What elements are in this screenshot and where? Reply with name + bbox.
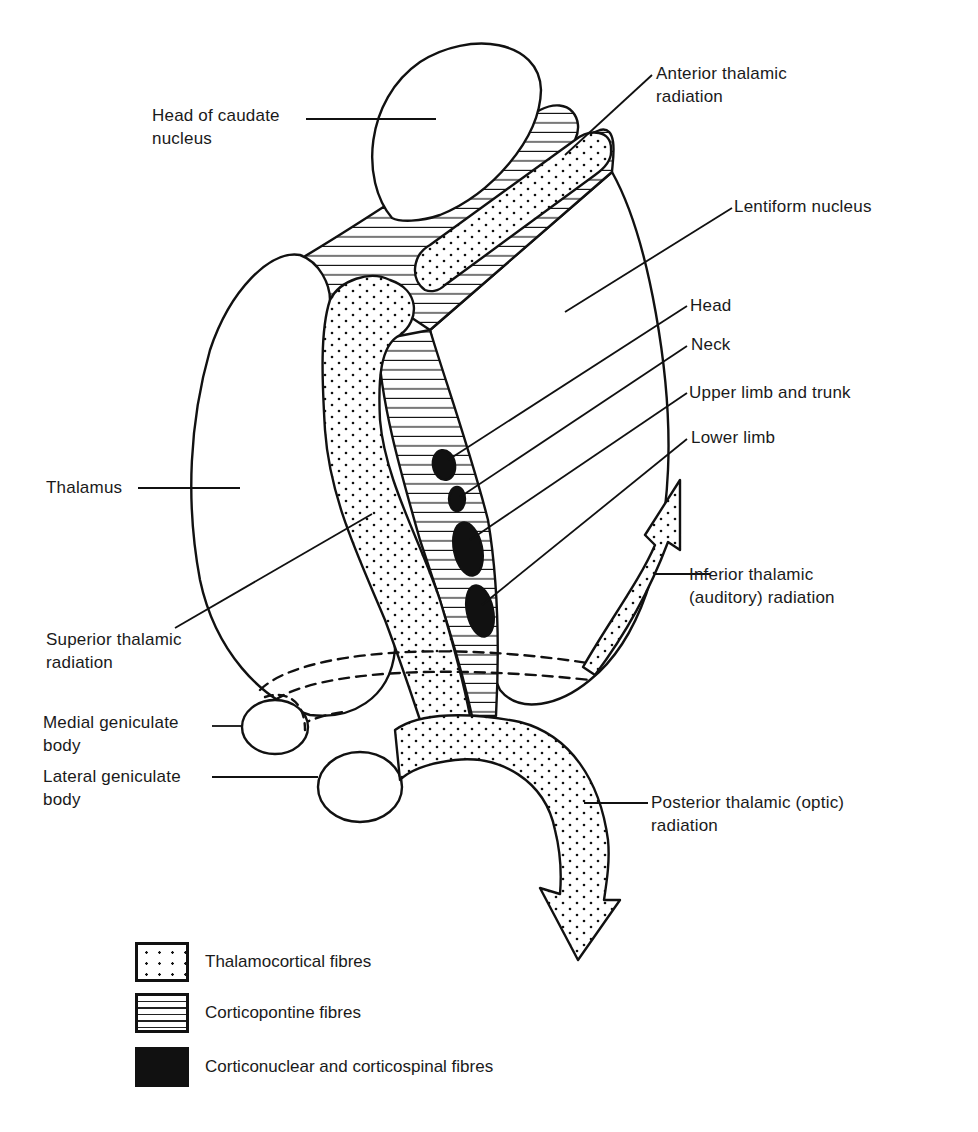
lined-pattern-swatch-icon — [135, 993, 189, 1033]
label-superior-thalamic-radiation: Superior thalamic radiation — [46, 628, 182, 674]
optic-radiation-arrow — [395, 715, 620, 960]
legend-label: Corticopontine fibres — [205, 1003, 361, 1023]
label-anterior-thalamic-radiation: Anterior thalamic radiation — [656, 62, 787, 108]
label-head-of-caudate: Head of caudate nucleus — [152, 104, 280, 150]
legend-item-corticonuclear-corticospinal: Corticonuclear and corticospinal fibres — [135, 1047, 493, 1087]
legend-item-thalamocortical: Thalamocortical fibres — [135, 942, 371, 982]
fibres-neck — [449, 487, 465, 511]
lateral-geniculate-body — [318, 752, 402, 822]
label-posterior-thalamic-radiation: Posterior thalamic (optic) radiation — [651, 791, 844, 837]
label-thalamus: Thalamus — [46, 476, 122, 499]
medial-geniculate-body — [242, 700, 308, 754]
label-lateral-geniculate-body: Lateral geniculate body — [43, 765, 181, 811]
label-lentiform-nucleus: Lentiform nucleus — [734, 195, 872, 218]
label-medial-geniculate-body: Medial geniculate body — [43, 711, 179, 757]
label-neck: Neck — [691, 333, 731, 356]
legend-label: Thalamocortical fibres — [205, 952, 371, 972]
label-inferior-thalamic-radiation: Inferior thalamic (auditory) radiation — [689, 563, 835, 609]
dotted-pattern-swatch-icon — [135, 942, 189, 982]
legend-item-corticopontine: Corticopontine fibres — [135, 993, 361, 1033]
legend-label: Corticonuclear and corticospinal fibres — [205, 1057, 493, 1077]
label-lower-limb: Lower limb — [691, 426, 775, 449]
solid-swatch-icon — [135, 1047, 189, 1087]
label-upper-limb-and-trunk: Upper limb and trunk — [689, 381, 851, 404]
label-head: Head — [690, 294, 731, 317]
